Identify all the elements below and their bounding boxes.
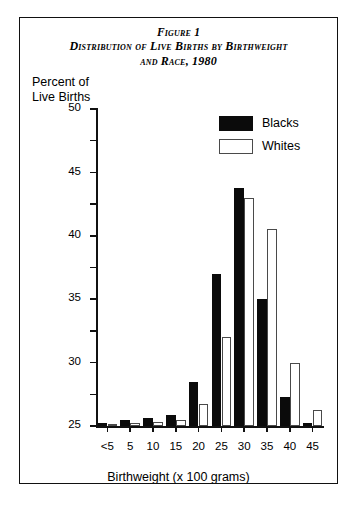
x-axis-tick: 20 — [198, 426, 200, 432]
y-axis-tick: 15 — [90, 330, 96, 332]
bar-blacks-35 — [257, 299, 267, 426]
bar-whites-35 — [267, 229, 277, 426]
figure-title-line-1: Distribution of Live Births by Birthweig… — [20, 39, 337, 54]
x-axis-tick: <5 — [107, 426, 109, 432]
y-axis-tick-label: 40 — [68, 229, 81, 241]
bar-whites-25 — [222, 337, 232, 426]
x-axis-title: Birthweight (x 100 grams) — [20, 470, 337, 484]
x-axis-tick: 10 — [152, 426, 154, 432]
y-axis-tick: 45 — [90, 140, 96, 142]
y-axis-tick-label: 35 — [68, 293, 81, 305]
x-axis-tick-label: 45 — [306, 441, 319, 453]
figure-title-line-2: and Race, 1980 — [20, 54, 337, 69]
x-axis-tick-label: 15 — [169, 441, 182, 453]
bar-blacks-40 — [280, 397, 290, 426]
y-axis-tick: 5 — [90, 394, 96, 396]
bar-blacks-20 — [189, 382, 199, 426]
y-axis-tick: 30 — [90, 235, 96, 237]
bar-blacks-45 — [303, 423, 313, 426]
x-axis-tick-label: 35 — [261, 441, 274, 453]
figure-number: Figure 1 — [20, 25, 337, 39]
y-axis-tick: 10 — [90, 362, 96, 364]
y-axis-tick: 20 — [90, 298, 96, 300]
y-axis-tick: 0 — [90, 425, 96, 427]
bar-blacks-lt5 — [98, 423, 108, 426]
y-axis-tick-label: 50 — [68, 103, 81, 115]
y-axis-tick: 25 — [90, 267, 96, 269]
x-axis-tick-label: 30 — [238, 441, 251, 453]
bar-blacks-25 — [212, 274, 222, 426]
bar-blacks-30 — [234, 188, 244, 426]
x-axis-tick: 15 — [175, 426, 177, 432]
bar-whites-40 — [290, 363, 300, 426]
y-axis-tick: 50 — [90, 108, 96, 110]
y-axis-tick-label: 45 — [68, 166, 81, 178]
bar-blacks-15 — [166, 415, 176, 426]
bar-whites-15 — [176, 420, 186, 426]
bar-whites-lt5 — [108, 424, 118, 426]
y-axis-tick-label: 20 — [68, 483, 81, 484]
y-axis-line — [96, 108, 98, 426]
y-axis-tick-label: 25 — [68, 420, 81, 432]
bar-whites-20 — [199, 404, 209, 426]
y-axis-tick: 35 — [90, 203, 96, 205]
bar-whites-30 — [244, 198, 254, 426]
x-axis-tick: 40 — [289, 426, 291, 432]
x-axis-tick: 45 — [312, 426, 314, 432]
x-axis-tick-label: 5 — [127, 441, 133, 453]
y-axis-tick: 40 — [90, 172, 96, 174]
bar-whites-10 — [153, 422, 163, 426]
bar-whites-45 — [313, 410, 323, 426]
bar-blacks-10 — [143, 418, 153, 426]
x-axis-tick: 30 — [243, 426, 245, 432]
chart-plot-area: 05101520253035404550<551015202530354045 — [96, 109, 324, 426]
figure-title: Figure 1 Distribution of Live Births by … — [20, 25, 337, 69]
x-axis-tick-label: <5 — [101, 441, 114, 453]
bar-whites-5 — [130, 423, 140, 426]
y-axis-tick-label: 30 — [68, 356, 81, 368]
x-axis-tick: 5 — [129, 426, 131, 432]
figure-frame: Figure 1 Distribution of Live Births by … — [19, 17, 338, 484]
x-axis-tick: 25 — [221, 426, 223, 432]
bar-blacks-5 — [120, 420, 130, 426]
y-axis-caption: Percent of Live Births — [32, 75, 90, 104]
x-axis-tick-label: 40 — [283, 441, 296, 453]
x-axis-tick-label: 25 — [215, 441, 228, 453]
x-axis-tick-label: 10 — [147, 441, 160, 453]
x-axis-tick-label: 20 — [192, 441, 205, 453]
x-axis-tick: 35 — [266, 426, 268, 432]
